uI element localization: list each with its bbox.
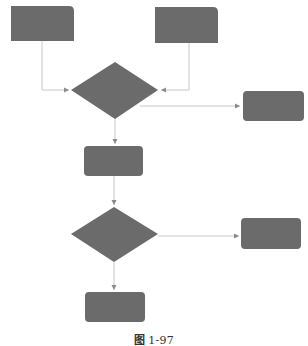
process-2-box: [85, 292, 145, 322]
figure-caption: 图1-97: [0, 331, 308, 346]
branch-2-box: [241, 218, 301, 249]
input-a-box: [11, 6, 74, 41]
process-1-box: [84, 146, 143, 176]
figure-label: 图: [134, 334, 145, 346]
branch-1-box: [243, 91, 304, 121]
flowchart-diagram: [0, 0, 308, 346]
figure-number: 1-97: [148, 334, 174, 346]
decision-1-diamond: [71, 62, 158, 119]
decision-2-diamond: [71, 207, 158, 262]
input-b-box: [155, 7, 218, 43]
edge-input-a-to-decision-1: [42, 41, 69, 90]
edge-input-b-to-decision-1: [161, 43, 189, 90]
